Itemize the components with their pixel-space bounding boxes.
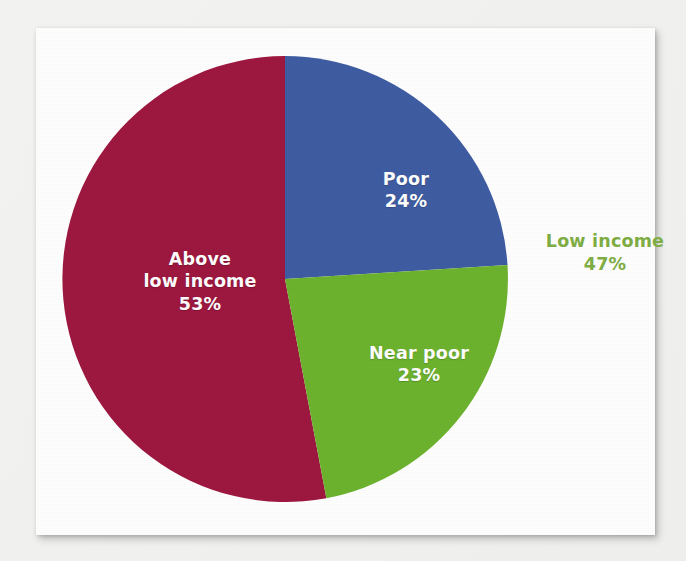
pie-chart-svg [0,0,686,561]
slice-label-above-line1: Above [169,249,231,269]
annotation-low-income: Low income 47% [530,230,680,276]
slice-label-poor-pct: 24% [336,190,476,212]
slice-label-poor-name: Poor [383,169,429,189]
slice-label-above-line2: low income [143,271,256,291]
slice-label-above-low-income: Above low income 53% [120,248,280,315]
chart-panel: Poor 24% Near poor 23% Above low income … [36,28,655,535]
pie-chart: Poor 24% Near poor 23% Above low income … [36,28,655,535]
slice-label-near-poor-pct: 23% [344,364,494,386]
slice-label-near-poor: Near poor 23% [344,342,494,387]
slice-label-above-pct: 53% [120,293,280,315]
slice-label-poor: Poor 24% [336,168,476,213]
slice-label-near-poor-name: Near poor [369,343,469,363]
figure-frame: Poor 24% Near poor 23% Above low income … [0,0,686,561]
annotation-low-income-name: Low income [546,231,664,251]
annotation-low-income-pct: 47% [530,253,680,276]
